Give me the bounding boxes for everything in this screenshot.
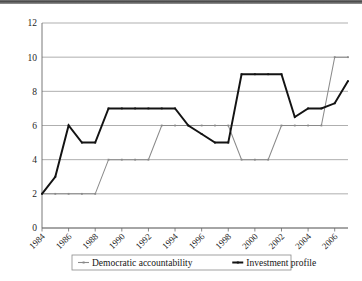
data-point-dem-2007 [347,56,349,58]
y-tick-label-0: 0 [32,223,37,233]
data-point-dem-1993 [161,125,163,127]
data-point-inv-2001 [267,73,269,75]
data-point-dem-1985 [54,193,56,195]
y-tick-label-8: 8 [32,87,37,97]
data-point-inv-1987 [81,142,83,144]
data-point-inv-1990 [121,108,123,110]
data-point-inv-1993 [161,108,163,110]
line-chart: 024681012 198419861988199019921994199619… [0,0,362,281]
data-point-dem-1994 [174,125,176,127]
data-point-dem-1990 [121,159,123,161]
series-line-investment-profile [42,74,348,194]
chart-canvas: 024681012 198419861988199019921994199619… [0,0,362,281]
data-point-dem-1989 [108,159,110,161]
data-point-dem-1999 [241,159,243,161]
x-tick-group [42,228,335,232]
data-point-inv-2004 [307,108,309,110]
data-point-dem-2003 [294,125,296,127]
data-point-dem-1997 [214,125,216,127]
x-tick-label-1986: 1986 [54,231,74,251]
legend-marker-1 [237,262,239,264]
data-point-inv-1995 [187,125,189,127]
y-tick-label-12: 12 [28,18,38,28]
data-point-dem-2005 [320,125,322,127]
data-point-dem-2004 [307,125,309,127]
data-point-dem-1998 [227,125,229,127]
data-point-dem-1996 [201,125,203,127]
data-point-inv-1996 [201,133,203,135]
data-point-inv-1999 [241,73,243,75]
data-point-dem-1988 [94,193,96,195]
data-point-inv-2000 [254,73,256,75]
data-point-dem-2001 [267,159,269,161]
data-point-inv-2005 [320,108,322,110]
x-tick-label-1992: 1992 [134,231,154,251]
chart-legend: Democratic accountabilityInvestment prof… [72,255,316,270]
x-tick-label-1984: 1984 [27,231,47,251]
data-point-inv-2007 [347,80,349,82]
y-tick-label-10: 10 [28,53,38,63]
y-tick-label-2: 2 [32,189,37,199]
y-tick-label-group: 024681012 [28,18,38,233]
data-point-inv-1984 [41,193,43,195]
legend-label-democratic-accountability: Democratic accountability [92,258,193,268]
x-tick-label-2000: 2000 [240,231,260,251]
x-tick-label-1990: 1990 [107,231,127,251]
data-point-dem-1987 [81,193,83,195]
x-tick-label-group: 1984198619881990199219941996199820002002… [27,231,340,251]
x-tick-label-2004: 2004 [293,231,313,251]
data-point-dem-1991 [134,159,136,161]
legend-label-investment-profile: Investment profile [246,258,316,268]
data-point-inv-1985 [54,176,56,178]
x-tick-label-2006: 2006 [320,231,340,251]
data-point-dem-1992 [148,159,150,161]
y-tick-label-4: 4 [32,155,37,165]
data-point-inv-1992 [148,108,150,110]
data-point-dem-1986 [68,193,70,195]
data-point-inv-1988 [94,142,96,144]
y-tick-label-6: 6 [32,121,37,131]
data-point-inv-1986 [68,125,70,127]
x-tick-label-2002: 2002 [267,231,287,251]
data-point-inv-2006 [334,102,336,104]
data-point-inv-1997 [214,142,216,144]
data-point-dem-2002 [281,125,283,127]
x-tick-label-1998: 1998 [213,231,233,251]
data-point-dem-2006 [334,56,336,58]
data-point-inv-1989 [108,108,110,110]
data-point-inv-1994 [174,108,176,110]
data-point-inv-2002 [281,73,283,75]
data-point-dem-2000 [254,159,256,161]
data-point-inv-1998 [227,142,229,144]
legend-marker-0 [83,262,85,264]
x-tick-label-1996: 1996 [187,231,207,251]
data-point-inv-2003 [294,116,296,118]
x-tick-label-1988: 1988 [80,231,100,251]
data-point-inv-1991 [134,108,136,110]
x-tick-label-1994: 1994 [160,231,180,251]
